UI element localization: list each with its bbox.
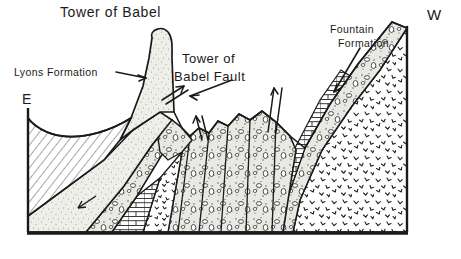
cross-section-canvas: Tower of Babel Lyons Formation Tower of … [0, 0, 461, 259]
fault-label-line2: Babel Fault [174, 69, 245, 84]
fountain-formation-label-line2: Formation [338, 37, 389, 49]
direction-marker-east: E [22, 91, 31, 107]
direction-marker-west: W [427, 6, 442, 23]
fault-label-line1: Tower of [182, 51, 235, 66]
lyons-formation-pointer [116, 72, 146, 81]
fountain-formation-label-line1: Fountain [330, 23, 374, 35]
page-title: Tower of Babel [60, 4, 161, 20]
geologic-cross-section-figure: Tower of Babel Lyons Formation Tower of … [0, 0, 461, 259]
lyons-formation-label: Lyons Formation [14, 66, 98, 78]
